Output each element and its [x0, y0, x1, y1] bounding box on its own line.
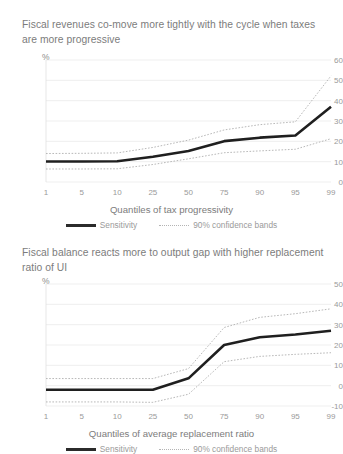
x-axis-title-2: Quantiles of average replacement ratio — [0, 428, 343, 439]
chart-title-2: Fiscal balance reacts more to output gap… — [22, 246, 332, 275]
plot-area-1: 01020304050601510255075909599 — [0, 52, 343, 214]
x-tick-label: 90 — [255, 188, 264, 197]
legend-item-sensitivity-2: Sensitivity — [66, 444, 137, 454]
x-tick-label: 50 — [184, 412, 193, 421]
plot-area-2: -10010203040501510255075909599 — [0, 276, 343, 438]
y-tick-label: 60 — [305, 56, 343, 65]
y-tick-label: 40 — [305, 300, 343, 309]
legend-1: Sensitivity 90% confidence bands — [0, 220, 343, 230]
solid-line-icon — [66, 224, 96, 227]
chart-panel-tax-progressivity: Fiscal revenues co-move more tightly wit… — [0, 0, 343, 232]
x-tick-label: 99 — [327, 188, 336, 197]
y-tick-label: -10 — [305, 402, 343, 411]
legend-item-bands-2: 90% confidence bands — [159, 444, 277, 454]
x-tick-label: 5 — [79, 188, 83, 197]
chart-title-1: Fiscal revenues co-move more tightly wit… — [22, 18, 332, 47]
legend-label-sensitivity-2: Sensitivity — [100, 444, 137, 454]
y-tick-label: 10 — [305, 157, 343, 166]
chart-panel-replacement-ratio: Fiscal balance reacts more to output gap… — [0, 232, 343, 450]
x-tick-label: 10 — [113, 412, 122, 421]
x-tick-label: 95 — [291, 188, 300, 197]
series-line-90-confidence-bands-lower — [46, 139, 331, 169]
y-tick-label: 50 — [305, 280, 343, 289]
y-tick-label: 50 — [305, 76, 343, 85]
legend-label-bands-1: 90% confidence bands — [193, 220, 277, 230]
x-axis-title-1: Quantiles of tax progressivity — [0, 204, 343, 215]
x-tick-label: 90 — [255, 412, 264, 421]
y-tick-label: 0 — [305, 178, 343, 187]
legend-label-bands-2: 90% confidence bands — [193, 444, 277, 454]
x-tick-label: 95 — [291, 412, 300, 421]
x-tick-label: 5 — [79, 412, 83, 421]
series-line-90-confidence-bands-upper — [46, 309, 331, 379]
x-tick-label: 1 — [44, 412, 48, 421]
x-tick-label: 10 — [113, 188, 122, 197]
series-line-sensitivity — [46, 331, 331, 390]
legend-item-bands-1: 90% confidence bands — [159, 220, 277, 230]
x-tick-label: 25 — [148, 188, 157, 197]
x-tick-label: 75 — [220, 188, 229, 197]
legend-item-sensitivity-1: Sensitivity — [66, 220, 137, 230]
y-tick-label: 0 — [305, 381, 343, 390]
y-tick-label: 40 — [305, 96, 343, 105]
x-tick-label: 50 — [184, 188, 193, 197]
x-tick-label: 25 — [148, 412, 157, 421]
x-tick-label: 1 — [44, 188, 48, 197]
solid-line-icon — [66, 448, 96, 451]
legend-2: Sensitivity 90% confidence bands — [0, 444, 343, 454]
y-tick-label: 20 — [305, 341, 343, 350]
dotted-line-icon — [159, 449, 189, 450]
x-tick-label: 99 — [327, 412, 336, 421]
y-tick-label: 30 — [305, 117, 343, 126]
y-tick-label: 20 — [305, 137, 343, 146]
y-tick-label: 10 — [305, 361, 343, 370]
legend-label-sensitivity-1: Sensitivity — [100, 220, 137, 230]
x-tick-label: 75 — [220, 412, 229, 421]
dotted-line-icon — [159, 225, 189, 226]
series-line-90-confidence-bands-upper — [46, 76, 331, 154]
y-tick-label: 30 — [305, 320, 343, 329]
